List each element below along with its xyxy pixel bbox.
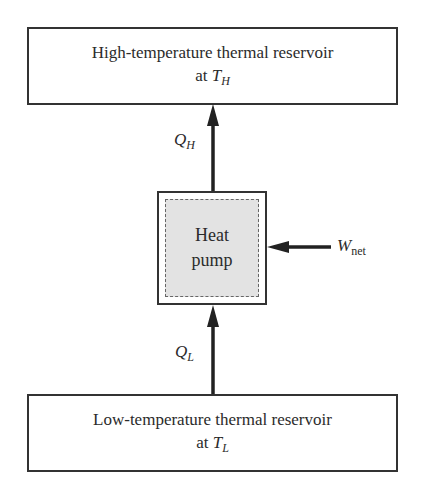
q-high-subscript: H	[186, 138, 195, 152]
temp-subscript-h: H	[221, 74, 230, 88]
arrow-wnet-icon	[267, 241, 331, 253]
heat-pump-label-line2: pump	[191, 248, 232, 273]
heat-pump-inner-boundary: Heat pump	[165, 199, 259, 297]
temp-symbol-th: T	[212, 66, 221, 85]
heat-pump-label-line1: Heat	[195, 223, 229, 248]
q-high-symbol: Q	[174, 130, 186, 149]
low-reservoir-temp: at TL	[29, 431, 396, 460]
heat-pump-box: Heat pump	[157, 191, 267, 305]
high-reservoir-prefix: at	[195, 66, 212, 85]
label-w-net: Wnet	[337, 236, 366, 259]
arrow-qh-icon	[207, 104, 219, 191]
high-reservoir-temp: at TH	[29, 64, 396, 93]
high-temperature-reservoir: High-temperature thermal reservoir at TH	[27, 27, 398, 105]
temp-symbol-tl: T	[213, 433, 222, 452]
w-net-subscript: net	[351, 244, 366, 258]
label-q-high: QH	[174, 130, 195, 153]
high-reservoir-title: High-temperature thermal reservoir	[29, 29, 396, 64]
low-reservoir-prefix: at	[196, 433, 213, 452]
q-low-symbol: Q	[175, 342, 187, 361]
w-net-symbol: W	[337, 236, 351, 255]
low-reservoir-title: Low-temperature thermal reservoir	[29, 396, 396, 431]
arrow-ql-icon	[207, 305, 219, 394]
temp-subscript-l: L	[222, 441, 229, 455]
low-temperature-reservoir: Low-temperature thermal reservoir at TL	[27, 394, 398, 472]
q-low-subscript: L	[187, 350, 194, 364]
label-q-low: QL	[175, 342, 194, 365]
